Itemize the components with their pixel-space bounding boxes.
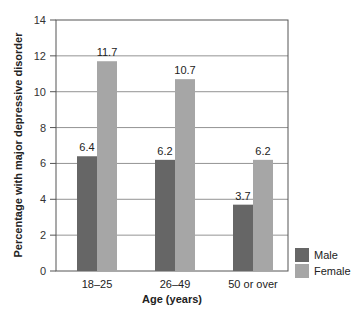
bar-female — [175, 79, 195, 271]
x-category-label: 26–49 — [160, 278, 191, 290]
y-tick-label: 10 — [34, 86, 46, 98]
y-tick-label: 4 — [40, 193, 46, 205]
x-axis-categories: 18–2526–4950 or over — [82, 278, 278, 290]
bar-value-label: 3.7 — [235, 190, 250, 202]
x-category-label: 50 or over — [228, 278, 278, 290]
bar-male — [77, 156, 97, 271]
bar-value-label: 6.2 — [255, 145, 270, 157]
x-axis-title: Age (years) — [142, 293, 202, 305]
bar-female — [97, 61, 117, 271]
y-axis-title: Percentage with major depressive disorde… — [12, 32, 24, 258]
bar-female — [253, 160, 273, 271]
bar-value-label: 11.7 — [97, 46, 118, 58]
bar-male — [233, 205, 253, 271]
bar-value-label: 6.2 — [157, 145, 172, 157]
y-tick-label: 6 — [40, 157, 46, 169]
legend-swatch-male — [295, 248, 309, 262]
y-tick-label: 0 — [40, 265, 46, 277]
bars: 6.411.76.210.73.76.2 — [77, 46, 273, 271]
x-category-label: 18–25 — [82, 278, 113, 290]
bar-value-label: 6.4 — [79, 141, 94, 153]
y-tick-label: 8 — [40, 122, 46, 134]
y-axis-ticks: 02468101214 — [34, 14, 56, 277]
legend-swatch-female — [295, 264, 309, 278]
bar-value-label: 10.7 — [174, 64, 195, 76]
legend-label: Male — [314, 249, 338, 261]
legend: MaleFemale — [295, 248, 351, 278]
legend-label: Female — [314, 265, 351, 277]
bar-male — [155, 160, 175, 271]
y-tick-label: 12 — [34, 50, 46, 62]
y-tick-label: 2 — [40, 229, 46, 241]
y-tick-label: 14 — [34, 14, 46, 26]
bar-chart: 02468101214 6.411.76.210.73.76.2 18–2526… — [0, 0, 364, 321]
